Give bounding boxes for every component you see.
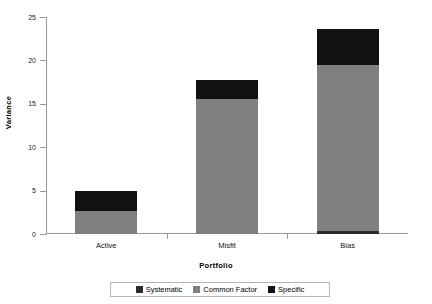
bar-segment-common-factor <box>196 99 258 234</box>
y-axis-tick <box>40 60 47 61</box>
y-axis-tick <box>40 17 47 18</box>
legend-item-systematic[interactable]: Systematic <box>136 286 183 294</box>
bar-segment-specific <box>196 80 258 99</box>
legend-swatch <box>268 286 275 293</box>
x-axis-category-label: Bias <box>308 242 388 250</box>
x-axis-category-label: Misfit <box>187 242 267 250</box>
bar-segment-common-factor <box>75 211 137 234</box>
y-axis-tick <box>40 191 47 192</box>
x-axis-category-label: Active <box>66 242 146 250</box>
y-axis-tick-label: 15 <box>14 100 36 107</box>
bar-segment-common-factor <box>317 65 379 231</box>
y-axis-tick <box>40 234 47 235</box>
x-axis-tick <box>167 233 168 239</box>
legend-item-specific[interactable]: Specific <box>268 286 304 294</box>
y-axis-tick-label: 0 <box>14 231 36 238</box>
plot-area: 0510152025 <box>46 17 408 234</box>
legend-label: Systematic <box>146 286 183 294</box>
legend-swatch <box>136 286 143 293</box>
x-axis-tick <box>287 233 288 239</box>
bar-misfit[interactable] <box>196 80 258 234</box>
legend-label: Specific <box>278 286 304 294</box>
y-axis-tick <box>40 147 47 148</box>
bar-active[interactable] <box>75 191 137 234</box>
legend-swatch <box>193 286 200 293</box>
variance-stacked-bar-chart: Variance 0510152025 Portfolio Systematic… <box>0 0 432 304</box>
bar-segment-systematic <box>317 231 379 234</box>
bar-segment-specific <box>317 29 379 65</box>
y-axis-tick-label: 5 <box>14 187 36 194</box>
chart-legend: SystematicCommon FactorSpecific <box>110 282 330 297</box>
y-axis-title: Variance <box>4 83 13 143</box>
legend-label: Common Factor <box>203 286 257 294</box>
y-axis-line <box>46 17 47 234</box>
y-axis-tick <box>40 104 47 105</box>
y-axis-tick-label: 10 <box>14 144 36 151</box>
bar-bias[interactable] <box>317 29 379 234</box>
bar-segment-specific <box>75 191 137 211</box>
x-axis-title: Portfolio <box>0 261 432 270</box>
legend-item-common-factor[interactable]: Common Factor <box>193 286 257 294</box>
y-axis-tick-label: 20 <box>14 57 36 64</box>
y-axis-tick-label: 25 <box>14 14 36 21</box>
